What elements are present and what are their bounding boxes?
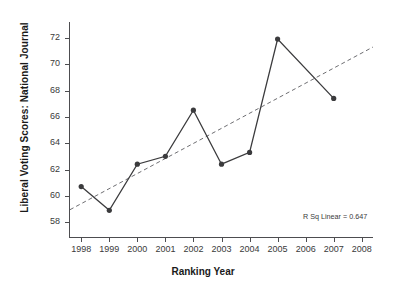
- data-point-marker[interactable]: [275, 37, 280, 42]
- data-point-marker[interactable]: [247, 150, 252, 155]
- x-axis-title: Ranking Year: [0, 266, 406, 277]
- data-point-marker[interactable]: [219, 162, 224, 167]
- data-point-marker[interactable]: [135, 162, 140, 167]
- chart-container: Liberal Voting Scores: National Journal …: [0, 0, 406, 287]
- data-point-marker[interactable]: [107, 208, 112, 213]
- r-squared-annotation: R Sq Linear = 0.647: [303, 212, 367, 221]
- data-point-marker[interactable]: [79, 184, 84, 189]
- data-line: [81, 39, 334, 210]
- data-point-marker[interactable]: [163, 154, 168, 159]
- chart-plot-area: [0, 0, 406, 287]
- data-point-marker[interactable]: [191, 108, 196, 113]
- linear-fit-line: [70, 47, 373, 210]
- data-point-marker[interactable]: [331, 96, 336, 101]
